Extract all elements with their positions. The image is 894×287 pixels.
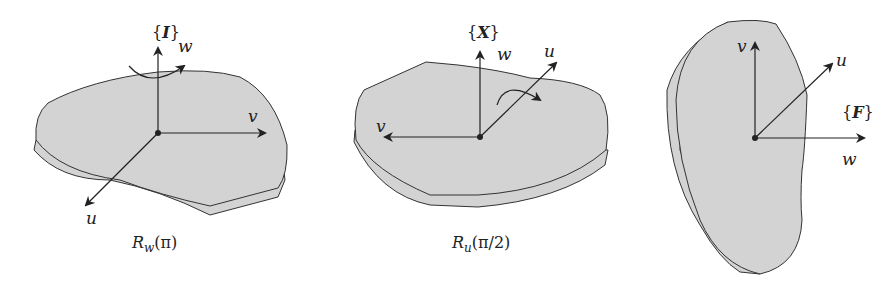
v-label: v — [376, 116, 386, 136]
frame-label: {I} — [152, 23, 180, 42]
caption: Rw(π) — [131, 233, 177, 255]
panel-intermediate-frame: {X} w u v Ru(π/2) — [354, 23, 608, 255]
w-label: w — [178, 36, 193, 56]
origin-dot — [477, 134, 483, 140]
v-label: v — [737, 36, 747, 56]
caption: Ru(π/2) — [451, 233, 510, 255]
plate-top — [36, 71, 287, 206]
frame-label: {X} — [467, 23, 500, 42]
u-label: u — [86, 208, 97, 228]
panel-initial-frame: {I} w v u Rw(π) — [34, 23, 287, 255]
v-label: v — [248, 106, 258, 126]
origin-dot — [752, 135, 758, 141]
u-label: u — [544, 41, 555, 61]
frame-label: {F} — [842, 103, 874, 122]
u-label: u — [836, 50, 847, 70]
panel-final-frame: v u {F} w — [667, 20, 874, 274]
plate-top — [676, 20, 807, 274]
rotation-sequence-diagram: {I} w v u Rw(π) {X} w u v Ru(π/2) v u {F… — [0, 0, 894, 287]
origin-dot — [155, 130, 161, 136]
w-label: w — [497, 44, 512, 64]
w-label: w — [842, 149, 857, 169]
